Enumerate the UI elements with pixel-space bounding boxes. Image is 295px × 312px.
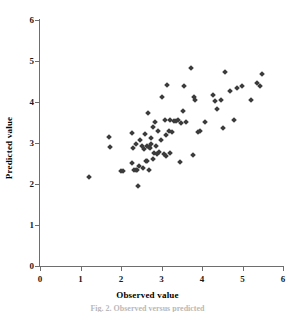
y-axis-tick-label: 0 — [24, 262, 34, 271]
scatter-point — [138, 137, 144, 143]
scatter-point — [153, 143, 159, 149]
scatter-point — [259, 71, 265, 77]
scatter-point — [145, 110, 151, 116]
scatter-point — [149, 135, 155, 141]
y-axis-tick-label: 3 — [24, 139, 34, 148]
scatter-point — [212, 98, 218, 104]
y-axis-tick — [35, 61, 39, 62]
x-axis-tick — [81, 267, 82, 271]
x-axis-tick — [202, 267, 203, 271]
x-axis-tick-label: 3 — [152, 275, 172, 284]
scatter-point — [210, 92, 216, 98]
scatter-point — [129, 130, 135, 136]
scatter-point — [232, 117, 238, 123]
scatter-point — [159, 94, 165, 100]
x-axis-tick — [243, 267, 244, 271]
scatter-point — [220, 125, 226, 131]
x-axis-tick-label: 2 — [111, 275, 131, 284]
y-axis-tick — [35, 143, 39, 144]
x-axis-tick — [283, 267, 284, 271]
x-axis-tick — [121, 267, 122, 271]
scatter-point — [168, 150, 174, 156]
scatter-point — [192, 97, 198, 103]
scatter-point — [147, 168, 153, 174]
y-axis-tick-label: 5 — [24, 57, 34, 66]
scatter-point — [181, 83, 187, 89]
x-axis-tick-label: 6 — [273, 275, 293, 284]
y-axis-tick-label: 4 — [24, 98, 34, 107]
scatter-point — [183, 119, 189, 125]
scatter-point — [180, 108, 186, 114]
y-axis-tick — [35, 225, 39, 226]
x-axis-title: Observed value — [0, 290, 295, 300]
y-axis-tick — [35, 266, 39, 267]
x-axis-tick-label: 0 — [30, 275, 50, 284]
x-axis-tick — [162, 267, 163, 271]
scatter-point — [120, 168, 126, 174]
scatter-point — [106, 134, 112, 140]
figure-root: 0123456 0123456 Observed value Predicted… — [0, 0, 295, 312]
scatter-point — [158, 137, 164, 143]
scatter-point — [215, 106, 221, 112]
scatter-point — [188, 66, 194, 72]
scatter-point — [218, 97, 224, 103]
scatter-point — [136, 183, 142, 189]
y-axis-title: Predicted value — [4, 98, 14, 198]
scatter-point — [169, 129, 175, 135]
x-axis-tick — [40, 267, 41, 271]
scatter-point — [198, 128, 204, 134]
scatter-point — [257, 83, 263, 89]
scatter-point — [142, 131, 148, 137]
plot-area — [40, 20, 283, 266]
scatter-point — [190, 152, 196, 158]
scatter-point — [177, 159, 183, 165]
scatter-point — [108, 144, 114, 150]
x-axis-tick-label: 1 — [71, 275, 91, 284]
scatter-point — [155, 128, 161, 134]
scatter-point — [202, 119, 208, 125]
scatter-point — [164, 82, 170, 88]
y-axis-tick-label: 1 — [24, 221, 34, 230]
y-axis-tick-label: 6 — [24, 16, 34, 25]
y-axis-tick — [35, 184, 39, 185]
y-axis-tick-label: 2 — [24, 180, 34, 189]
y-axis-line — [39, 19, 40, 267]
scatter-point — [228, 88, 234, 94]
scatter-point — [153, 119, 159, 125]
x-axis-tick-label: 5 — [233, 275, 253, 284]
scatter-point — [150, 157, 156, 163]
y-axis-tick — [35, 102, 39, 103]
scatter-point — [222, 69, 228, 75]
x-axis-tick-label: 4 — [192, 275, 212, 284]
y-axis-tick — [35, 20, 39, 21]
scatter-point — [86, 174, 92, 180]
figure-caption: Fig. 2. Observed versus predicted — [0, 304, 295, 312]
scatter-point — [249, 97, 255, 103]
scatter-point — [129, 160, 135, 166]
